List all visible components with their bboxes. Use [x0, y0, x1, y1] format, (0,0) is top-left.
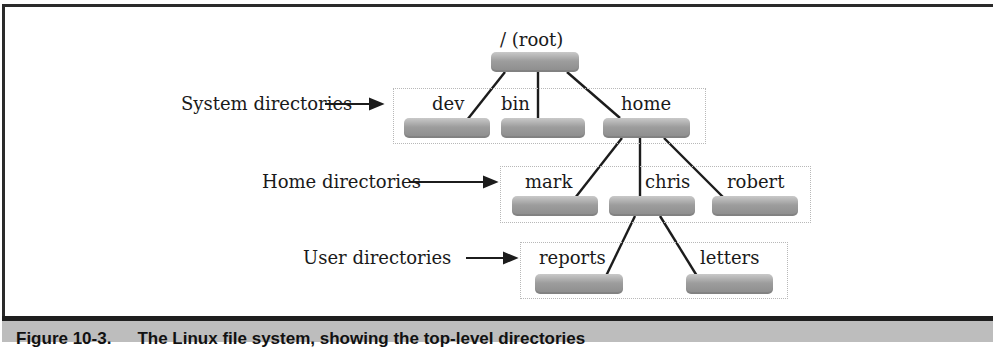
node-letters[interactable] — [686, 274, 773, 294]
node-root-label: / (root) — [500, 30, 563, 50]
node-bin-label: bin — [501, 94, 530, 114]
node-home-label: home — [621, 94, 671, 114]
node-robert[interactable] — [712, 196, 798, 216]
tree-edges — [0, 0, 993, 316]
node-bin[interactable] — [501, 118, 585, 138]
system-directories-label: System directories — [181, 94, 352, 114]
node-dev[interactable] — [404, 118, 490, 138]
node-chris-label: chris — [645, 172, 690, 192]
node-letters-label: letters — [700, 248, 759, 268]
user-directories-label: User directories — [303, 248, 451, 268]
node-mark-label: mark — [525, 172, 572, 192]
caption-bar: Figure 10-3.The Linux file system, showi… — [2, 316, 993, 342]
caption-text: The Linux file system, showing the top-l… — [137, 329, 585, 348]
node-root[interactable] — [491, 52, 579, 72]
node-home[interactable] — [603, 118, 690, 138]
node-dev-label: dev — [432, 94, 464, 114]
figure-number: Figure 10-3. — [16, 329, 111, 348]
node-reports-label: reports — [539, 248, 606, 268]
node-mark[interactable] — [512, 196, 598, 216]
figure-caption: Figure 10-3.The Linux file system, showi… — [16, 329, 585, 349]
home-directories-label: Home directories — [262, 172, 421, 192]
node-robert-label: robert — [727, 172, 784, 192]
node-reports[interactable] — [535, 274, 623, 294]
node-chris[interactable] — [609, 196, 695, 216]
